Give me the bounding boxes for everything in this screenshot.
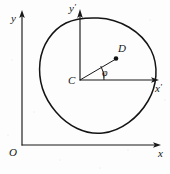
segment-cd — [80, 60, 115, 81]
paper-speckles — [8, 20, 166, 169]
point-c-label: C — [68, 74, 76, 86]
body-outline-curve — [40, 18, 156, 133]
point-d-label: D — [117, 42, 126, 54]
body-coordinate-frame: y′ x′ C — [68, 2, 163, 94]
body-x-prime-axis-label: x′ — [154, 82, 163, 94]
angle-phi-label: φ — [102, 67, 108, 78]
body-y-prime-axis-label: y′ — [68, 2, 77, 14]
geometry-diagram-svg: y x O y′ x′ C φ — [0, 0, 170, 174]
point-d-marker — [114, 56, 119, 61]
global-origin-label: O — [9, 146, 17, 158]
figure-container: y x O y′ x′ C φ — [0, 0, 170, 174]
global-x-axis-label: x — [157, 147, 163, 159]
global-y-axis-label: y — [10, 12, 16, 24]
global-coordinate-frame: y x O — [9, 10, 163, 159]
